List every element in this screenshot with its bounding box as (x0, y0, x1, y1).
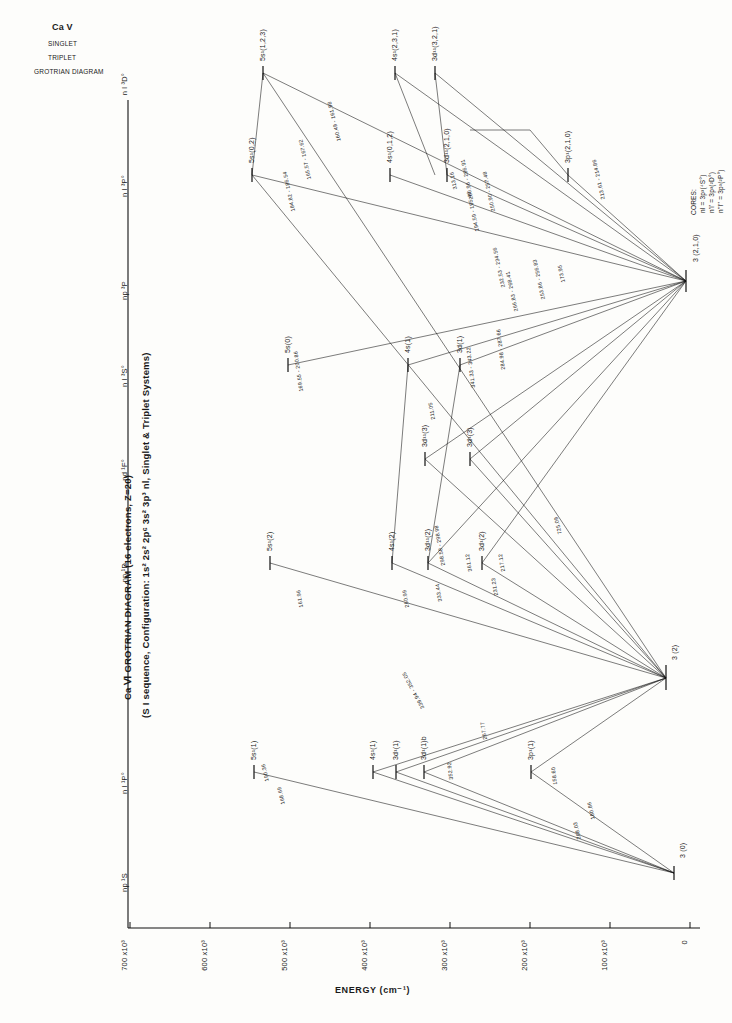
y-tick-label-6: 600 x10³ (200, 940, 209, 971)
level-label-3d1-3: 3d¹(3) (466, 427, 473, 447)
level-label-3d1-1: 3d¹(1) (392, 740, 399, 760)
level-label-3p1-210: 3p¹(2,1,0) (564, 131, 571, 163)
y-tick-label-1: 100 x10³ (600, 940, 609, 971)
level-label-3d11-210: 3d¹¹(2,1,0) (443, 128, 450, 163)
column-header-7: n l ³D° (120, 73, 129, 95)
y-tick-label-3: 300 x10³ (440, 940, 449, 971)
level-label-5s1-2: 5s¹(2) (266, 532, 273, 551)
level-label-3d11-3: 3d¹¹(3) (421, 425, 428, 447)
level-label-3d1-2: 3d¹(2) (478, 531, 485, 551)
level-label-4s1-012: 4s¹(0,1,2) (386, 131, 393, 163)
y-tick-label-4: 400 x10³ (360, 940, 369, 971)
level-label-4s-1: 4s(1) (404, 336, 411, 353)
level-label-5s1-02: 5s¹(0,2) (248, 137, 255, 163)
level-label-3d11-321: 3d¹¹(3,2,1) (431, 26, 438, 61)
level-label-3-210: 3 (2,1,0) (692, 234, 699, 262)
level-label-3d-1: 3d(1) (456, 336, 463, 353)
figure-sheet: Ca V SINGLET TRIPLET GROTRIAN DIAGRAM Ca… (0, 0, 732, 1023)
level-label-4s1-1: 4s¹(1) (369, 741, 376, 760)
y-tick-label-0: 0 (680, 940, 689, 944)
column-header-0: np ¹S (120, 873, 129, 892)
level-label-3-2: 3 (2) (671, 645, 678, 660)
level-label-5s-0: 5s(0) (284, 336, 291, 353)
y-tick-label-7: 700 x10³ (120, 940, 129, 971)
level-label-3p1-1: 3p¹(1) (527, 740, 534, 760)
y-tick-marks (130, 922, 690, 928)
level-label-4s1-231: 4s¹(2,3,1) (391, 29, 398, 61)
column-header-6: n l ³P° (120, 175, 129, 197)
level-label-3d1-1b: 3d¹(1)b (420, 736, 427, 760)
level-label-5s1-123: 5s¹(1,2,3) (259, 29, 266, 61)
level-label-4s1-2: 4s¹(2) (388, 532, 395, 551)
y-tick-label-2: 200 x10³ (520, 940, 529, 971)
column-header-2: np ¹D (120, 563, 129, 582)
column-header-3: nd ¹F° (120, 459, 129, 481)
column-header-1: n l ¹P° (120, 772, 129, 794)
level-label-3d11-2: 3d¹¹(2) (424, 529, 431, 551)
column-header-4: n l ³S° (120, 365, 129, 387)
column-header-5: np ³P (120, 281, 129, 300)
level-label-5s1-1: 5s¹(1) (250, 741, 257, 760)
grotrian-plot (0, 0, 732, 1023)
level-label-3-0: 3 (0) (679, 843, 686, 858)
y-tick-label-5: 500 x10³ (280, 940, 289, 971)
